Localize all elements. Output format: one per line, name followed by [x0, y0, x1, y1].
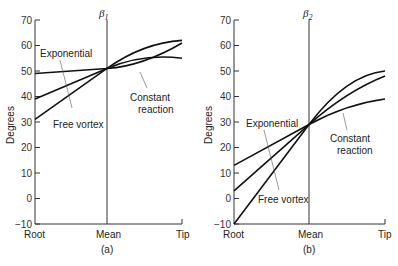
x-label-tip-b: Tip: [378, 229, 392, 240]
y-tick-label: 50: [21, 66, 33, 77]
y-tick-label: 40: [220, 91, 232, 102]
chart-panel-a: −10010203040506070 β1 Degrees Root Mean …: [5, 7, 190, 255]
y-tick-label: 60: [220, 40, 232, 51]
beta1-title: β1: [98, 7, 108, 22]
x-label-mean-a: Mean: [96, 229, 121, 240]
y-tick-label: 20: [21, 142, 33, 153]
y-tick-label: 50: [220, 66, 232, 77]
annotation-constant-a-2: reaction: [138, 104, 174, 115]
y-tick-label: −10: [15, 219, 32, 230]
y-tick-label: −10: [214, 219, 231, 230]
figure: −10010203040506070 β1 Degrees Root Mean …: [0, 0, 398, 266]
y-tick-label: 40: [21, 91, 33, 102]
annotation-exponential-b: Exponential: [246, 118, 298, 129]
annotation-constant-a-1: Constant: [130, 92, 170, 103]
y-tick-label: 0: [26, 193, 32, 204]
y-tick-label: 70: [220, 15, 232, 26]
annotation-constant-b-2: reaction: [337, 145, 373, 156]
leader-constant-b: [343, 113, 347, 130]
panel-label-b: (b): [303, 244, 315, 255]
annotation-free-vortex-a: Free vortex: [53, 119, 104, 130]
x-label-tip-a: Tip: [176, 229, 190, 240]
x-label-root-a: Root: [24, 229, 45, 240]
y-tick-label: 0: [225, 193, 231, 204]
annotation-constant-b-1: Constant: [330, 133, 370, 144]
y-tick-label: 30: [220, 117, 232, 128]
y-tick-label: 10: [220, 168, 232, 179]
y-axis-label-a: Degrees: [5, 106, 16, 144]
annotation-free-vortex-b: Free vortex: [258, 194, 309, 205]
y-axis-label-b: Degrees: [203, 106, 214, 144]
chart-panel-b: −10010203040506070 β2 Degrees Root Mean …: [203, 7, 392, 255]
y-tick-label: 10: [21, 168, 33, 179]
x-label-root-b: Root: [223, 229, 244, 240]
leader-constant-a: [140, 72, 147, 88]
x-label-mean-b: Mean: [298, 229, 323, 240]
beta2-title: β2: [302, 7, 312, 22]
y-tick-label: 20: [220, 142, 232, 153]
panel-label-a: (a): [101, 244, 113, 255]
annotation-exponential-a: Exponential: [40, 48, 92, 59]
y-tick-label: 70: [21, 15, 33, 26]
y-tick-label: 60: [21, 40, 33, 51]
y-tick-label: 30: [21, 117, 33, 128]
